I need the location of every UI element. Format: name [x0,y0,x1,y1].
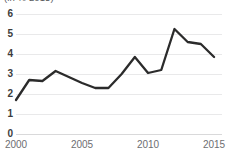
data-line-layer [16,14,222,134]
y-tick-label-4: 4 [7,49,13,59]
y-tick-label-3: 3 [7,69,13,79]
y-tick-label-1: 1 [7,109,13,119]
data-line-series-1 [16,29,214,100]
x-tick-label-2000: 2000 [5,139,27,150]
y-tick-label-2: 2 [7,89,13,99]
y-axis-labels: 6543210 [0,0,13,158]
x-tick-label-2015: 2015 [203,139,225,150]
x-tick-label-2010: 2010 [137,139,159,150]
y-tick-label-6: 6 [7,9,13,19]
y-tick-label-5: 5 [7,29,13,39]
y-tick-label-0: 0 [7,129,13,139]
line-chart: (in % 2015) 6543210 2000200520102015 [0,0,226,158]
x-tick-label-2005: 2005 [71,139,93,150]
plot-area [16,14,222,134]
